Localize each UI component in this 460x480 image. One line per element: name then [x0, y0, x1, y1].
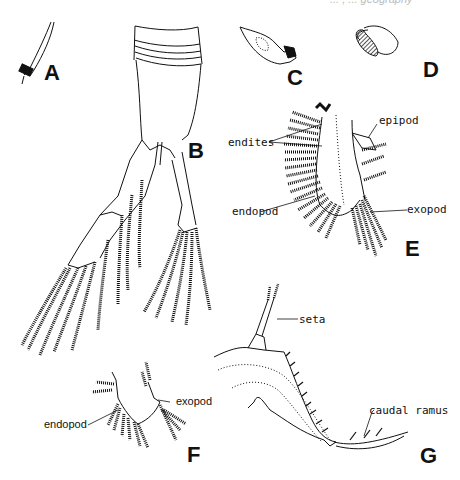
annotation-endites: endites — [228, 137, 274, 148]
annotation-caudal-ramus: caudal ramus — [369, 405, 448, 416]
panel-label-g: G — [420, 445, 437, 467]
drawing-c — [240, 27, 296, 64]
figure-plate: ... , ... geography — [0, 0, 460, 480]
drawing-d — [356, 26, 398, 56]
annotation-epipod: epipod — [379, 115, 419, 126]
annotation-endopod-f: endopod — [44, 419, 87, 430]
drawing-g — [214, 284, 408, 449]
annotation-endopod-e: endopod — [232, 206, 278, 217]
drawing-e — [284, 104, 386, 256]
panel-label-b: B — [188, 140, 204, 162]
drawing-f — [88, 362, 186, 448]
annotation-exopod-e: exopod — [407, 204, 447, 215]
panel-label-a: A — [44, 62, 60, 84]
panel-label-c: C — [287, 67, 303, 89]
panel-label-f: F — [187, 444, 200, 466]
annotation-seta: seta — [299, 314, 326, 325]
panel-label-d: D — [423, 59, 439, 81]
annotation-exopod-f: exopod — [176, 396, 212, 407]
panel-label-e: E — [405, 238, 420, 260]
